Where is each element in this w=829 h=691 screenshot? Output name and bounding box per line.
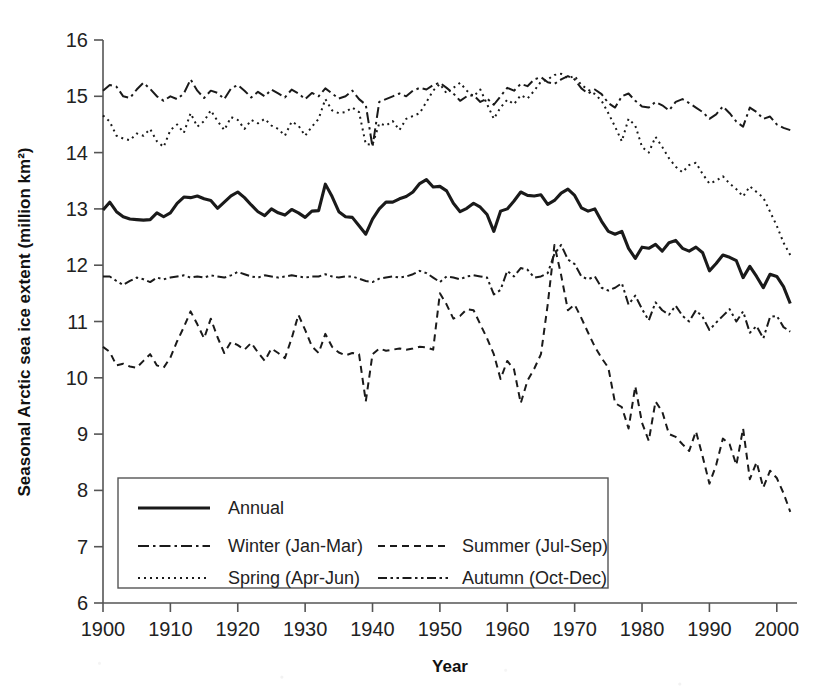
- x-tick-label: 2000: [755, 618, 800, 640]
- y-tick-label: 9: [77, 423, 88, 445]
- legend-label: Winter (Jan-Mar): [228, 536, 363, 556]
- y-tick-label: 7: [77, 536, 88, 558]
- x-axis-title: Year: [432, 657, 468, 676]
- x-tick-label: 1900: [81, 618, 126, 640]
- sea-ice-extent-line-chart: 678910111213141516 190019101920193019401…: [0, 0, 829, 691]
- legend-label: Summer (Jul-Sep): [462, 536, 608, 556]
- y-tick-label: 11: [67, 311, 88, 333]
- x-tick-label: 1950: [418, 618, 463, 640]
- y-axis-title: Seasonal Arctic sea ice extent (million …: [15, 148, 34, 497]
- y-tick-label: 16: [66, 29, 88, 51]
- x-tick-label: 1980: [620, 618, 665, 640]
- chart-figure: 678910111213141516 190019101920193019401…: [0, 0, 829, 691]
- y-tick-label: 15: [66, 85, 88, 107]
- y-tick-label: 12: [66, 254, 88, 276]
- legend-label: Spring (Apr-Jun): [228, 568, 360, 588]
- y-tick-label: 6: [77, 592, 88, 614]
- y-tick-label: 13: [66, 198, 88, 220]
- x-tick-label: 1990: [687, 618, 732, 640]
- x-tick-label: 1970: [552, 618, 597, 640]
- x-tick-label: 1910: [148, 618, 193, 640]
- x-tick-label: 1930: [283, 618, 328, 640]
- y-tick-label: 8: [77, 479, 88, 501]
- legend-label: Autumn (Oct-Dec): [462, 568, 607, 588]
- x-tick-label: 1960: [485, 618, 530, 640]
- x-tick-label: 1940: [350, 618, 395, 640]
- y-tick-label: 10: [66, 367, 88, 389]
- legend-label: Annual: [228, 498, 284, 518]
- y-tick-label: 14: [66, 142, 88, 164]
- x-tick-label: 1920: [216, 618, 261, 640]
